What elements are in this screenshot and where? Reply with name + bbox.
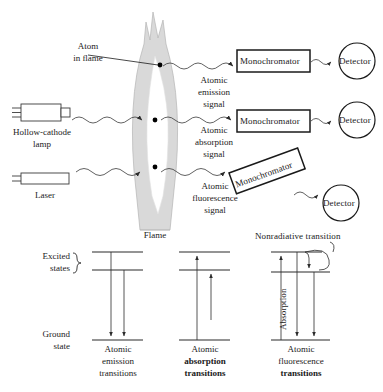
emission-caption: Atomic emission transitions xyxy=(90,343,146,379)
fluorescence-caption: Atomic fluorescence transitions xyxy=(266,343,336,379)
atom-in-flame-label: Atom in flame xyxy=(60,40,116,64)
emission-level-graphic xyxy=(92,252,143,340)
excited-states-brace xyxy=(73,253,81,273)
nonradiative-transition-label: Nonradiative transition xyxy=(255,231,341,242)
figure-canvas: Atom in flame Hollow-cathode lamp Laser … xyxy=(0,0,383,392)
detector-emission-label[interactable]: Detector xyxy=(339,56,371,67)
hollow-cathode-lamp-label: Hollow-cathode lamp xyxy=(4,126,80,150)
ground-state-label: Ground state xyxy=(18,328,70,352)
hollow-cathode-lamp-graphic xyxy=(12,104,70,121)
absorption-level-graphic xyxy=(179,252,230,340)
absorption-vertical-label: Absorption xyxy=(278,289,289,331)
fluorescence-to-detector-wave xyxy=(294,192,318,198)
excited-states-label: Excited states xyxy=(18,250,70,274)
atomic-absorption-signal-label: Atomic absorption signal xyxy=(186,124,242,160)
atomic-emission-signal-label: Atomic emission signal xyxy=(186,74,242,110)
monochromator-emission-label[interactable]: Monochromator xyxy=(240,56,300,67)
laser-label: Laser xyxy=(22,189,68,201)
nonradiative-leader-line xyxy=(330,242,334,252)
emission-to-detector-wave xyxy=(311,60,331,65)
detector-fluorescence-label[interactable]: Detector xyxy=(323,198,355,209)
absorption-caption: Atomic absorption transitions xyxy=(176,343,234,379)
flame-label: Flame xyxy=(134,229,176,241)
atom-dot-emission xyxy=(158,63,163,68)
monochromator-absorption-label[interactable]: Monochromator xyxy=(240,116,300,127)
laser-graphic xyxy=(12,173,69,184)
detector-absorption-label[interactable]: Detector xyxy=(339,115,371,126)
atom-dot-absorption xyxy=(153,118,158,123)
atom-dot-fluorescence xyxy=(153,165,158,170)
absorption-to-detector-wave xyxy=(311,119,331,124)
